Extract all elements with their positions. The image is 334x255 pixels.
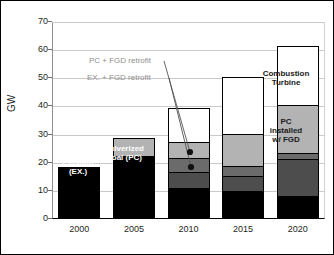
bar-segment-2010-pc_fgd_retrofit (168, 158, 210, 173)
bar-segment-2020-pc_installed_fgd (277, 105, 319, 154)
x-tick-label-2020: 2020 (273, 224, 323, 234)
y-axis-title: GW (6, 95, 17, 112)
bar-segment-2015-pc_installed_fgd (222, 134, 264, 167)
bar-2010 (168, 109, 210, 219)
bar-segment-2010-combustion_turbine (168, 108, 210, 143)
bar-segment-2010-ex_fgd_retrofit (168, 172, 210, 190)
bar-2000 (58, 168, 100, 220)
x-axis-labels: 20002005201020152020 (52, 224, 325, 240)
y-tick-label-10: 10 (22, 186, 48, 195)
bar-segment-2020-existing (277, 196, 319, 220)
annotation-pc-fgd-retrofit: PC + FGD retrofit (89, 56, 151, 65)
bar-segment-2010-pc_installed_fgd (168, 142, 210, 158)
bar-2020 (277, 47, 319, 219)
bar-segment-2020-combustion_turbine (277, 46, 319, 106)
chart-root: GW 010203040506070 20002005201020152020 … (0, 0, 334, 255)
bar-segment-2015-existing (222, 191, 264, 219)
bar-segment-2000-existing (58, 167, 100, 220)
x-tick-label-2000: 2000 (54, 224, 104, 234)
x-tick-label-2015: 2015 (218, 224, 268, 234)
y-tick-label-40: 40 (22, 101, 48, 110)
y-tick-label-70: 70 (22, 17, 48, 26)
bar-2005 (113, 139, 155, 219)
bar-segment-2015-ex_fgd_retrofit (222, 176, 264, 192)
bar-2015 (222, 78, 264, 219)
x-tick-label-2010: 2010 (164, 224, 214, 234)
y-tick-label-60: 60 (22, 45, 48, 54)
y-tick-label-0: 0 (22, 214, 48, 223)
bar-segment-2020-ex_fgd_retrofit (277, 159, 319, 197)
x-tick-label-2005: 2005 (109, 224, 159, 234)
y-tick-label-50: 50 (22, 73, 48, 82)
bar-segment-2010-existing (168, 188, 210, 219)
bar-segment-2015-combustion_turbine (222, 77, 264, 134)
bar-segment-2005-pc_installed_fgd (113, 138, 155, 157)
y-tick-label-20: 20 (22, 158, 48, 167)
bars-layer (52, 22, 325, 219)
bar-segment-2015-pc_fgd_retrofit (222, 166, 264, 177)
y-tick-label-30: 30 (22, 130, 48, 139)
annotation-ex-fgd-retrofit: EX. + FGD retrofit (87, 73, 151, 82)
bar-segment-2005-existing (113, 156, 155, 219)
